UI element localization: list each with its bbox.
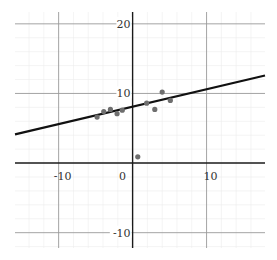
data-point — [95, 115, 100, 120]
y-tick-label: 10 — [117, 87, 131, 100]
data-point — [108, 107, 113, 112]
data-point — [152, 107, 157, 112]
regression-line — [15, 76, 265, 135]
tick-labels: -100102010-10 — [54, 17, 218, 240]
x-tick-label: 0 — [119, 170, 126, 183]
regression-line-path — [15, 76, 265, 135]
data-point — [168, 98, 173, 103]
x-tick-label: -10 — [54, 170, 72, 183]
y-tick-label: -10 — [113, 227, 131, 240]
data-point — [114, 111, 119, 116]
data-point — [101, 109, 106, 114]
major-grid — [15, 12, 265, 248]
y-tick-label: 20 — [117, 18, 131, 31]
scatter-plot-with-regression-line: -100102010-10 — [0, 0, 277, 260]
data-point — [120, 108, 125, 113]
axes — [15, 12, 265, 248]
data-point — [135, 154, 140, 159]
minor-grid — [15, 12, 265, 248]
data-point — [160, 89, 165, 94]
data-point — [144, 101, 149, 106]
x-tick-label: 10 — [204, 170, 218, 183]
